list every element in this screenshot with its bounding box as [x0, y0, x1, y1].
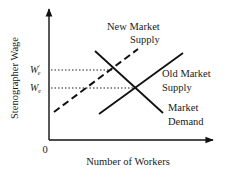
supply-demand-diagram: Stenographer Wage Number of Workers 0 W′… — [0, 0, 225, 178]
new-market-supply-curve — [54, 49, 138, 112]
old-market-supply-label: Old Market Supply — [162, 68, 213, 93]
y-axis-label: Stenographer Wage — [9, 37, 20, 119]
new-market-supply-label: New Market Supply — [107, 21, 162, 45]
market-demand-curve — [95, 51, 163, 113]
market-demand-label: Market Demand — [168, 102, 204, 127]
new-equilibrium-wage-label: W′e — [30, 64, 41, 76]
x-axis-label: Number of Workers — [86, 156, 170, 167]
origin-label: 0 — [42, 144, 47, 155]
old-equilibrium-wage-label: We — [30, 82, 41, 94]
